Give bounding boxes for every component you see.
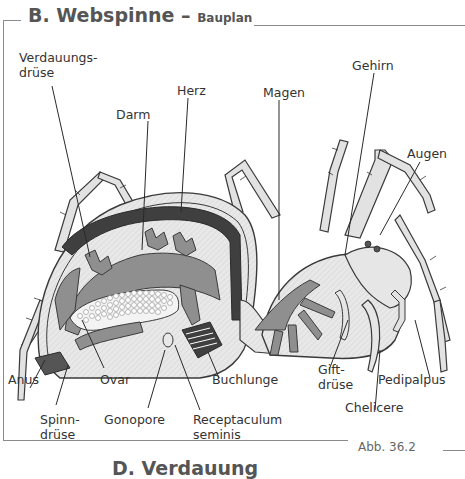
label-line-1: Gift- xyxy=(318,362,353,377)
label-ovar: Ovar xyxy=(100,372,130,387)
leader-pedipalpus xyxy=(415,320,430,378)
label-chelicere: Chelicere xyxy=(345,400,403,415)
receptaculum-seminis xyxy=(163,333,173,347)
label-line-1: Spinn- xyxy=(40,412,80,427)
label-line-1: Verdauungs- xyxy=(19,50,98,65)
cephalothorax xyxy=(240,241,411,372)
label-buchlunge: Buchlunge xyxy=(212,372,278,387)
label-giftdruese: Gift- drüse xyxy=(318,362,353,392)
label-line-2: drüse xyxy=(40,427,80,442)
label-verdauungsdruese: Verdauungs- drüse xyxy=(19,50,98,80)
next-section-title: D. Verdauung xyxy=(112,457,258,479)
label-pedipalpus: Pedipalpus xyxy=(378,372,446,387)
label-darm: Darm xyxy=(116,107,150,122)
label-line-1: Receptaculum xyxy=(193,412,282,427)
eye xyxy=(374,246,380,252)
label-augen: Augen xyxy=(407,146,447,161)
label-gonopore: Gonopore xyxy=(104,412,165,427)
label-herz: Herz xyxy=(177,83,206,98)
label-receptaculum-seminis: Receptaculum seminis xyxy=(193,412,282,442)
label-gehirn: Gehirn xyxy=(352,58,394,73)
leader-verdauungsdruese xyxy=(52,86,90,257)
label-spinndruese: Spinn- drüse xyxy=(40,412,80,442)
figure-caption: Abb. 36.2 xyxy=(358,440,416,454)
label-line-2: seminis xyxy=(193,427,282,442)
label-magen: Magen xyxy=(263,85,305,100)
label-line-2: drüse xyxy=(318,377,353,392)
label-anus: Anus xyxy=(8,372,39,387)
label-line-2: drüse xyxy=(19,65,98,80)
eye xyxy=(365,241,371,247)
